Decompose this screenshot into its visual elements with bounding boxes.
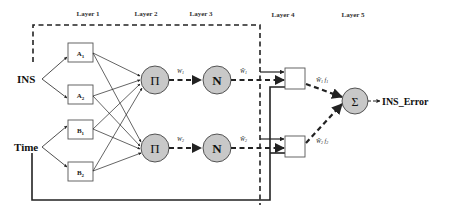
consequent-box-2 <box>285 136 305 157</box>
box-b1: B1 <box>68 120 93 139</box>
norm-node-2: N <box>203 134 231 162</box>
product-node-2: Π <box>141 134 169 162</box>
norm-to-layer4-edges <box>231 80 284 148</box>
membership-boxes: A1 A2 B1 B2 <box>68 43 93 181</box>
input-ins-label: INS <box>17 73 35 85</box>
rule-edges <box>93 53 142 171</box>
consequent-2-label: W̄2 f2 <box>316 138 328 145</box>
weight-w2-label: W2 <box>177 136 184 143</box>
box-a2: A2 <box>68 85 93 104</box>
weight-w1-label: W1 <box>177 68 184 75</box>
norm-node-1: N <box>203 66 231 94</box>
anfis-diagram: Layer 1 Layer 2 Layer 3 Layer 4 Layer 5 … <box>0 0 450 210</box>
ins-dashed-bypass <box>33 25 260 205</box>
input-time-label: Time <box>14 141 38 153</box>
sum-node: Σ <box>342 88 368 114</box>
svg-text:N: N <box>212 141 222 156</box>
product-to-norm-edges <box>169 80 201 148</box>
box-b2: B2 <box>68 162 93 181</box>
layer-2-label: Layer 2 <box>134 10 158 18</box>
layer-1-label: Layer 1 <box>76 10 100 18</box>
layer-4-label: Layer 4 <box>271 11 295 19</box>
consequent-1-label: W̄1 f1 <box>316 77 328 84</box>
layer-5-label: Layer 5 <box>341 11 365 19</box>
svg-text:Σ: Σ <box>352 95 359 109</box>
norm-weight-2-label: W̄2 <box>240 136 247 143</box>
svg-text:Π: Π <box>150 141 159 156</box>
product-node-1: Π <box>141 66 169 94</box>
layer-3-label: Layer 3 <box>189 10 213 18</box>
output-label: INS_Error <box>382 96 429 107</box>
norm-weight-1-label: W̄1 <box>240 68 247 75</box>
box-a1: A1 <box>68 43 93 62</box>
svg-text:N: N <box>212 73 222 88</box>
consequent-box-1 <box>285 68 305 89</box>
svg-text:Π: Π <box>150 73 159 88</box>
input-edges <box>42 57 67 167</box>
consequent-to-sum-edges <box>306 84 342 143</box>
bypass-arrows <box>260 72 284 139</box>
